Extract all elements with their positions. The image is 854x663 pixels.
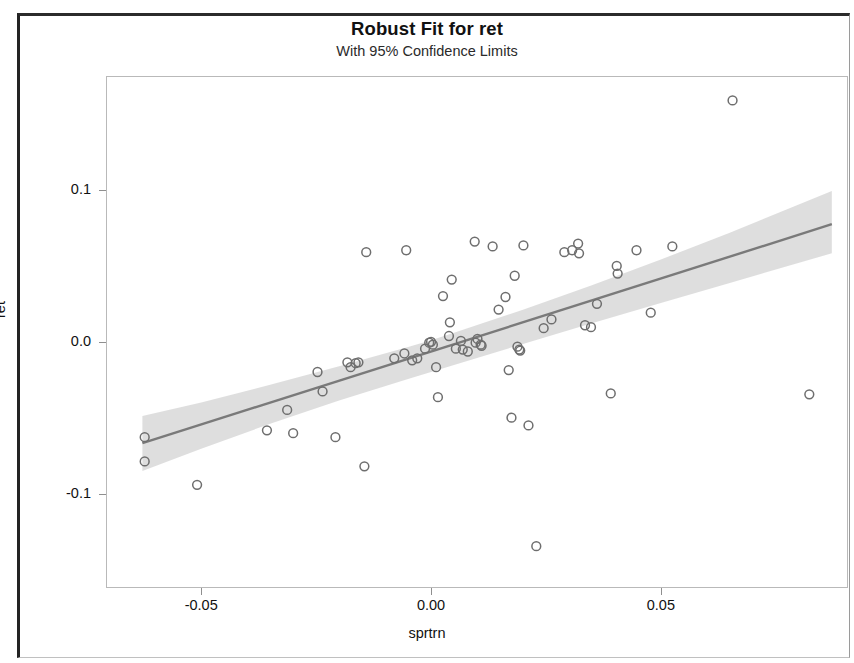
plot-canvas <box>107 77 847 587</box>
y-tick-label: 0.1 <box>39 181 91 197</box>
scatter-point <box>289 429 298 438</box>
y-tick-label: 0.0 <box>39 333 91 349</box>
scatter-point <box>193 480 202 489</box>
x-tick-label: -0.05 <box>166 597 236 613</box>
x-axis-title: sprtrn <box>0 625 854 641</box>
scatter-point <box>504 366 513 375</box>
x-tick-mark <box>431 588 432 595</box>
scatter-point <box>494 305 503 314</box>
scatter-point <box>632 246 641 255</box>
scatter-point <box>362 248 371 257</box>
plot-area <box>106 76 848 588</box>
scatter-point <box>402 246 411 255</box>
scatter-points <box>140 96 813 551</box>
scatter-point <box>263 426 272 435</box>
chart-title-block: Robust Fit for ret With 95% Confidence L… <box>0 18 854 59</box>
scatter-point <box>510 271 519 280</box>
scatter-point <box>445 318 454 327</box>
scatter-point <box>434 393 443 402</box>
x-tick-label: 0.05 <box>626 597 696 613</box>
y-tick-mark <box>99 494 106 495</box>
confidence-band <box>142 191 831 471</box>
scatter-point <box>507 413 516 422</box>
y-axis-title: ret <box>0 301 8 318</box>
x-tick-mark <box>661 588 662 595</box>
y-tick-mark <box>99 190 106 191</box>
scatter-point <box>501 293 510 302</box>
y-tick-label: -0.1 <box>39 485 91 501</box>
scatter-point <box>606 389 615 398</box>
scatter-point <box>805 390 814 399</box>
scatter-point <box>519 241 528 250</box>
scatter-point <box>646 308 655 317</box>
scatter-point <box>439 292 448 301</box>
confidence-band-area <box>142 191 831 471</box>
chart-subtitle: With 95% Confidence Limits <box>0 43 854 59</box>
scatter-point <box>532 542 541 551</box>
scatter-point <box>668 242 677 251</box>
y-tick-mark <box>99 342 106 343</box>
fit-line-segment <box>142 224 831 443</box>
robust-fit-line <box>142 224 831 443</box>
robust-fit-chart-figure: Robust Fit for ret With 95% Confidence L… <box>0 0 854 663</box>
scatter-point <box>447 275 456 284</box>
scatter-point <box>587 323 596 332</box>
page-title: Robust Fit for ret <box>0 18 854 40</box>
scatter-point <box>331 433 340 442</box>
scatter-point <box>728 96 737 105</box>
scatter-point <box>574 239 583 248</box>
scatter-point <box>470 237 479 246</box>
scatter-point <box>360 462 369 471</box>
x-tick-label: 0.00 <box>396 597 466 613</box>
scatter-point <box>488 242 497 251</box>
x-tick-mark <box>201 588 202 595</box>
scatter-point <box>524 421 533 430</box>
